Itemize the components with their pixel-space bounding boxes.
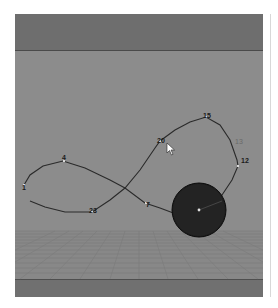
scene-overlay: 1 4 7 23 20 15 13 12: [0, 0, 278, 308]
arrow-cursor-icon: [167, 143, 175, 155]
frame-label-20: 20: [157, 137, 165, 144]
floor-grid: [15, 231, 263, 279]
frame-label-12: 12: [241, 157, 249, 164]
frame-label-15: 15: [203, 112, 211, 119]
sphere-pivot[interactable]: [198, 209, 201, 212]
sphere-object[interactable]: [172, 183, 226, 237]
frame-label-7: 7: [146, 201, 150, 208]
frame-label-13: 13: [235, 138, 243, 145]
frame-label-23: 23: [89, 207, 97, 214]
frame-label-4: 4: [62, 154, 66, 161]
frame-label-1: 1: [22, 184, 26, 191]
